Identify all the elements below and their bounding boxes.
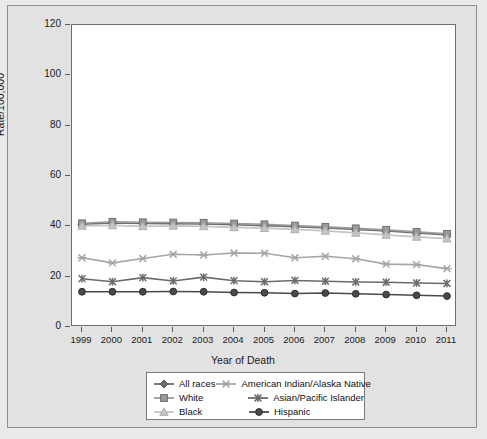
x-tick-label: 1999	[64, 334, 98, 345]
y-axis-title: Rate/100,000	[0, 73, 6, 136]
legend-marker	[153, 406, 175, 418]
legend-marker	[153, 378, 175, 390]
legend-item[interactable]: Black	[153, 406, 248, 418]
x-tick-label: 2000	[94, 334, 128, 345]
y-tick-mark	[65, 74, 70, 75]
data-point-circle	[200, 288, 207, 295]
x-tick-label: 2011	[429, 334, 463, 345]
x-tick-label: 2002	[155, 334, 189, 345]
series-line	[82, 253, 447, 269]
x-tick-label: 2008	[338, 334, 372, 345]
y-tick-mark	[65, 24, 70, 25]
y-tick-mark	[65, 175, 70, 176]
data-point-x	[222, 381, 231, 388]
x-tick-mark	[446, 327, 447, 332]
legend-label: White	[179, 392, 203, 404]
data-point-x	[351, 255, 360, 262]
data-point-x	[442, 265, 451, 272]
x-tick-mark	[111, 327, 112, 332]
data-point-circle	[79, 288, 86, 295]
legend-item[interactable]: White	[153, 392, 247, 404]
data-point-circle	[256, 409, 263, 416]
legend-row: WhiteAsian/Pacific Islander	[153, 391, 364, 405]
data-point-x	[260, 250, 269, 257]
series-3	[77, 250, 451, 272]
data-point-circle	[352, 290, 359, 297]
data-point-circle	[383, 291, 390, 298]
legend-label: Hispanic	[274, 406, 310, 418]
legend-item[interactable]: Hispanic	[248, 406, 310, 418]
data-point-x	[77, 254, 86, 261]
x-tick-label: 2007	[307, 334, 341, 345]
data-point-circle	[170, 288, 177, 295]
chart-svg	[72, 25, 457, 327]
data-point-circle	[109, 288, 116, 295]
legend-key-star	[247, 392, 269, 404]
legend-item[interactable]: American Indian/Alaska Native	[215, 378, 370, 390]
y-tick-label: 100	[25, 68, 61, 79]
y-tick-label: 120	[25, 18, 61, 29]
legend-item[interactable]: All races	[153, 378, 215, 390]
chart-figure: Rate/100,000 020406080100120 19992000200…	[7, 5, 477, 428]
y-tick-mark	[65, 225, 70, 226]
data-point-x	[229, 250, 238, 257]
data-point-x	[321, 253, 330, 260]
x-tick-label: 2001	[125, 334, 159, 345]
y-tick-label: 60	[25, 169, 61, 180]
series-5	[79, 288, 451, 299]
data-point-x	[138, 255, 147, 262]
series-4	[79, 273, 451, 287]
x-tick-label: 2004	[216, 334, 250, 345]
legend-label: American Indian/Alaska Native	[241, 378, 370, 390]
x-tick-mark	[233, 327, 234, 332]
data-point-circle	[292, 290, 299, 297]
legend-label: Asian/Pacific Islander	[273, 392, 364, 404]
data-point-x	[199, 252, 208, 259]
legend-key-diamond	[153, 378, 175, 390]
y-tick-label: 0	[25, 320, 61, 331]
legend-label: Black	[179, 406, 202, 418]
legend-marker	[247, 392, 269, 404]
legend-label: All races	[179, 378, 215, 390]
x-tick-mark	[81, 327, 82, 332]
data-point-x	[412, 261, 421, 268]
data-point-circle	[231, 289, 238, 296]
data-point-square	[161, 395, 168, 402]
x-tick-mark	[203, 327, 204, 332]
y-tick-label: 20	[25, 270, 61, 281]
x-tick-label: 2005	[247, 334, 281, 345]
data-point-circle	[322, 290, 329, 297]
chart-legend: All racesAmerican Indian/Alaska NativeWh…	[146, 372, 365, 420]
data-point-x	[108, 259, 117, 266]
y-tick-label: 80	[25, 119, 61, 130]
legend-key-square	[153, 392, 175, 404]
legend-key-circle	[248, 406, 270, 418]
legend-key-x	[215, 378, 237, 390]
data-point-x	[290, 254, 299, 261]
x-tick-mark	[385, 327, 386, 332]
data-point-circle	[413, 292, 420, 299]
legend-key-triangle	[153, 406, 175, 418]
legend-row: BlackHispanic	[153, 405, 364, 419]
y-tick-label: 40	[25, 219, 61, 230]
y-tick-mark	[65, 125, 70, 126]
legend-marker	[153, 392, 175, 404]
data-point-x	[382, 261, 391, 268]
legend-item[interactable]: Asian/Pacific Islander	[247, 392, 364, 404]
x-tick-mark	[355, 327, 356, 332]
data-point-circle	[139, 288, 146, 295]
legend-row: All racesAmerican Indian/Alaska Native	[153, 377, 364, 391]
x-tick-label: 2006	[277, 334, 311, 345]
x-tick-mark	[142, 327, 143, 332]
x-tick-mark	[172, 327, 173, 332]
legend-marker	[215, 378, 237, 390]
x-tick-label: 2010	[399, 334, 433, 345]
data-point-x	[169, 251, 178, 258]
x-tick-label: 2009	[368, 334, 402, 345]
x-tick-mark	[324, 327, 325, 332]
plot-area	[71, 24, 456, 326]
y-tick-mark	[65, 326, 70, 327]
legend-marker	[248, 406, 270, 418]
x-tick-mark	[294, 327, 295, 332]
x-tick-mark	[264, 327, 265, 332]
